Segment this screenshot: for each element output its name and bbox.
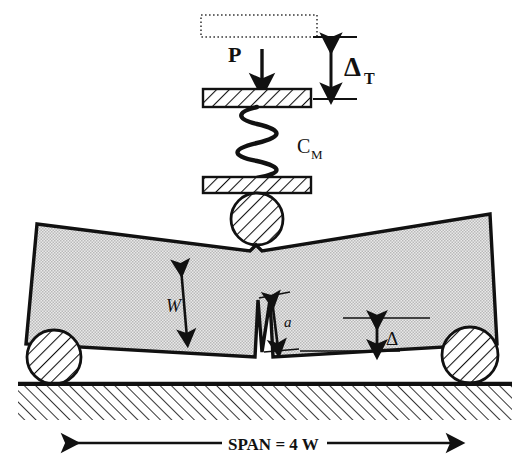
ground-support [18,384,512,420]
applied-load: P [228,42,262,85]
load-roller [231,193,283,245]
left-support-roller-circle [27,330,81,384]
spring-coil [238,107,277,178]
ground-hatching [18,386,512,420]
total-displacement-dimension: Δ T [313,37,375,99]
upper-platen [203,89,311,107]
span-label: SPAN = 4 W [228,435,319,454]
right-support-roller [442,327,498,383]
lower-platen-body [203,177,311,193]
delta-t-label: Δ [344,52,361,82]
ghost-platen-outline [201,15,317,37]
upper-platen-body [203,89,311,107]
lower-platen [203,177,311,193]
bend-test-schematic: Δ T P C M W a [0,0,527,470]
ghost-platen-initial-position [201,15,317,37]
load-roller-circle [231,193,283,245]
compliance-subscript: M [311,147,323,162]
span-dimension: SPAN = 4 W [70,431,455,454]
notch-depth-label-a: a [284,314,292,330]
machine-compliance-spring: C M [238,107,324,178]
compliance-label-c: C [297,135,310,157]
delta-t-subscript: T [364,70,375,87]
deflection-label-delta: Δ [386,328,398,349]
beam-depth-label-w: W [166,296,183,316]
figure-canvas: Δ T P C M W a [0,0,527,470]
left-support-roller [27,330,81,384]
right-support-roller-circle [442,327,498,383]
load-label-p: P [228,42,241,67]
